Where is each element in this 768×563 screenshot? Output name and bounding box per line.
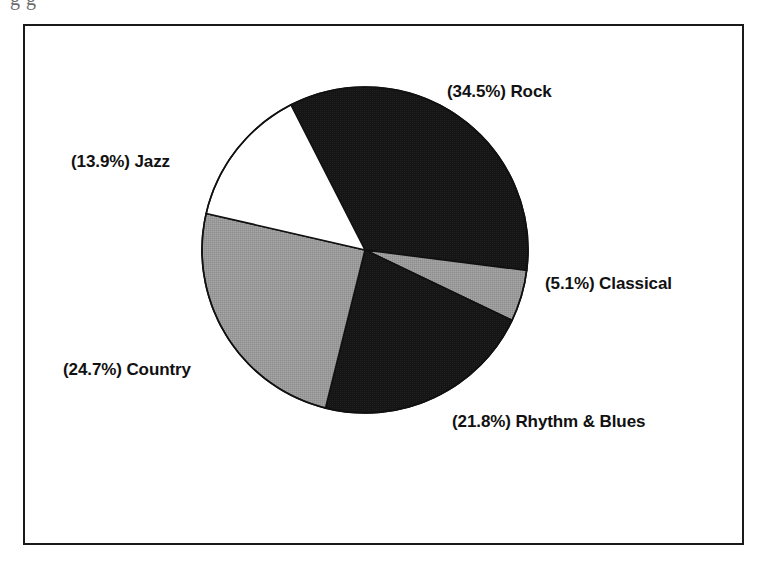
top-caption-strip: g g [0,0,768,16]
pie-label-rhythm-and-blues: (21.8%) Rhythm & Blues [452,412,645,432]
pie-label-jazz: (13.9%) Jazz [71,152,170,172]
top-caption-text: g g [10,0,37,10]
pie-label-classical: (5.1%) Classical [545,274,672,294]
pie-label-rock: (34.5%) Rock [447,82,552,102]
pie-label-country: (24.7%) Country [63,360,191,380]
